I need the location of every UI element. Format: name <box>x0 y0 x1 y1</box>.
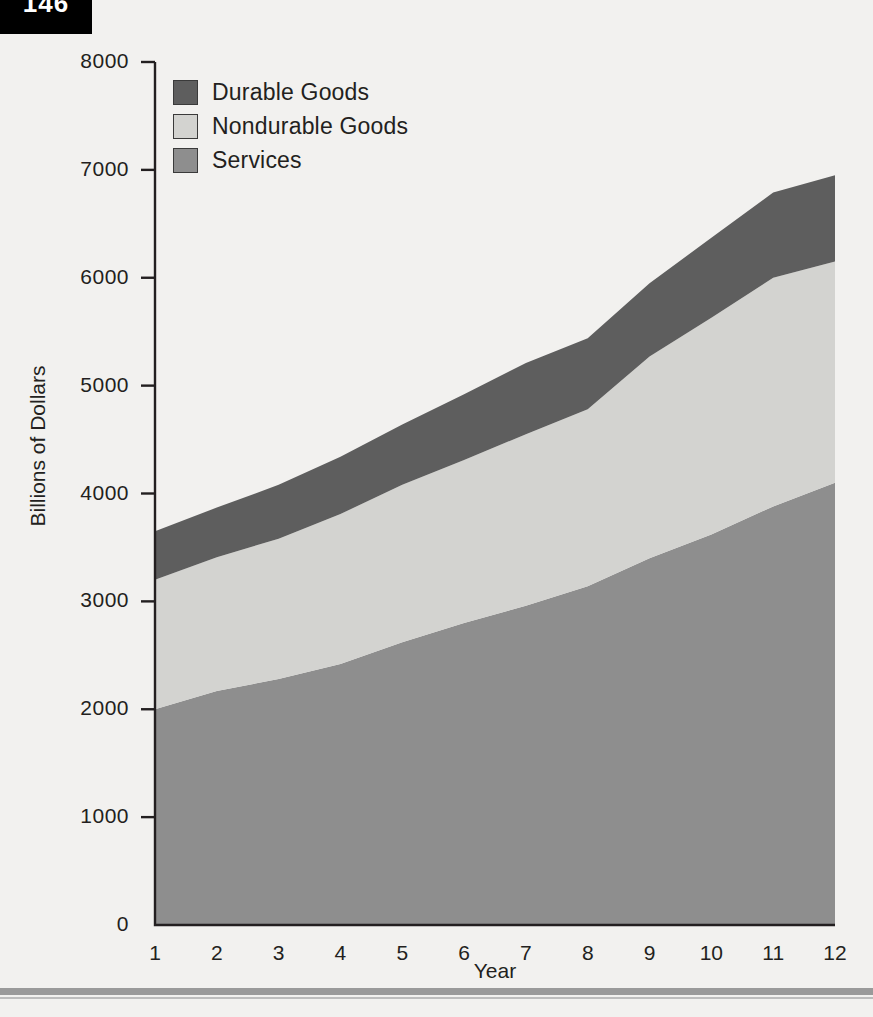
legend-item-services: Services <box>173 143 503 177</box>
axis-ticks <box>141 62 155 817</box>
legend-item-nondurable-goods: Nondurable Goods <box>173 109 503 143</box>
y-tick-label-6000: 6000 <box>0 265 129 289</box>
y-tick-label-0: 0 <box>0 912 129 936</box>
legend-swatch-durable-goods-icon <box>173 80 198 105</box>
chart-legend: Durable Goods Nondurable Goods Services <box>173 75 503 177</box>
y-tick-label-7000: 7000 <box>0 157 129 181</box>
page-number-label: 146 <box>23 0 69 18</box>
legend-label-services: Services <box>212 147 302 174</box>
y-axis-title: Billions of Dollars <box>26 346 50 546</box>
legend-swatch-services-icon <box>173 148 198 173</box>
chart-areas-group <box>155 175 835 925</box>
legend-label-durable-goods: Durable Goods <box>212 79 369 106</box>
x-axis-title: Year <box>155 959 835 983</box>
legend-swatch-nondurable-goods-icon <box>173 114 198 139</box>
y-tick-label-2000: 2000 <box>0 696 129 720</box>
legend-label-nondurable-goods: Nondurable Goods <box>212 113 408 140</box>
y-tick-label-5000: 5000 <box>0 373 129 397</box>
y-tick-label-1000: 1000 <box>0 804 129 828</box>
y-tick-label-3000: 3000 <box>0 588 129 612</box>
page-footer-rule <box>0 988 873 995</box>
page-number-tab: 146 <box>0 0 92 34</box>
y-tick-label-8000: 8000 <box>0 49 129 73</box>
page-footer-rule-secondary <box>0 997 873 999</box>
y-tick-label-4000: 4000 <box>0 481 129 505</box>
stacked-area-chart-figure: 800070006000500040003000200010000 123456… <box>0 34 873 984</box>
legend-item-durable-goods: Durable Goods <box>173 75 503 109</box>
